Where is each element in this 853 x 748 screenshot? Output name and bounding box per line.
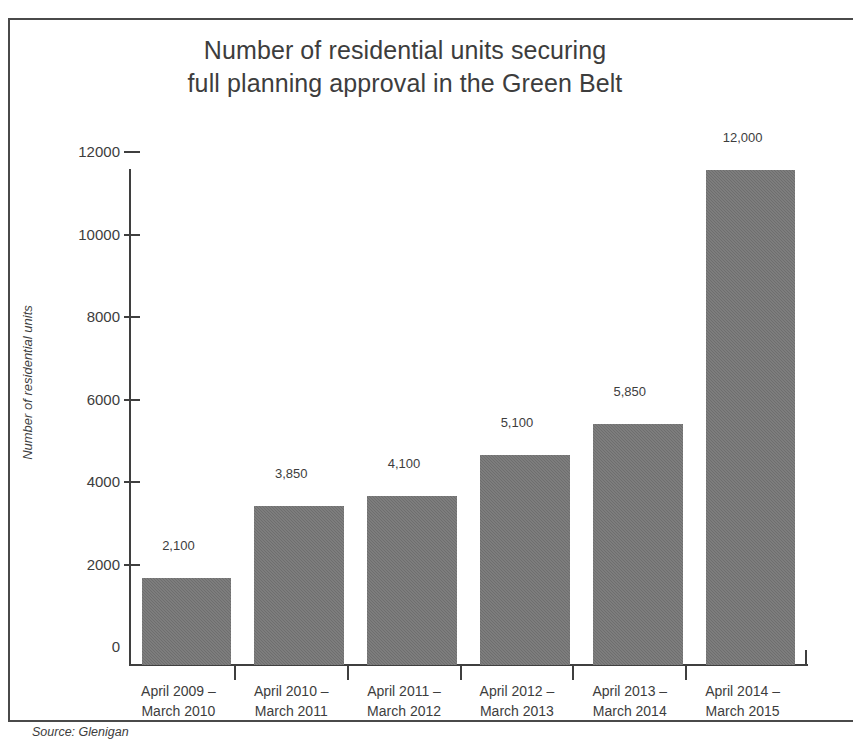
bar-value-label: 4,100 xyxy=(339,457,469,470)
y-axis-tick-label: 10000 xyxy=(58,227,120,242)
bar[interactable] xyxy=(706,170,796,665)
bar[interactable] xyxy=(254,506,344,665)
category-label-line: March 2010 xyxy=(122,701,235,721)
bar-value-label: 3,850 xyxy=(226,467,356,480)
category-label-line: April 2009 – xyxy=(122,681,235,701)
x-axis-tick xyxy=(572,666,574,680)
chart-title-line-1: Number of residential units securing xyxy=(10,34,800,67)
figure-frame: Number of residential units securing ful… xyxy=(8,18,853,722)
bar-value-label: 2,100 xyxy=(114,539,244,552)
bar[interactable] xyxy=(142,578,232,665)
y-axis-tick-label: 4000 xyxy=(58,474,120,489)
y-axis-tick-label: 2000 xyxy=(58,557,120,572)
category-label-line: April 2011 – xyxy=(348,681,461,701)
bar-value-label: 12,000 xyxy=(678,131,808,144)
x-axis-category-label: April 2013 –March 2014 xyxy=(573,681,686,721)
x-axis-tick xyxy=(347,666,349,680)
bar-value-label: 5,850 xyxy=(565,385,695,398)
category-label-line: March 2014 xyxy=(573,701,686,721)
y-axis-tick-label: 8000 xyxy=(58,309,120,324)
category-label-line: March 2015 xyxy=(686,701,799,721)
y-axis-tick-label: 12000 xyxy=(58,144,120,159)
x-axis-category-label: April 2011 –March 2012 xyxy=(348,681,461,721)
chart-title-line-2: full planning approval in the Green Belt xyxy=(10,67,800,100)
bar[interactable] xyxy=(367,496,457,665)
y-axis-tick-labels: 020004000600080001000012000 xyxy=(58,20,120,748)
category-label-line: March 2012 xyxy=(348,701,461,721)
chart-title: Number of residential units securing ful… xyxy=(10,34,800,100)
x-axis-category-label: April 2012 –March 2013 xyxy=(461,681,574,721)
x-axis-category-label: April 2014 –March 2015 xyxy=(686,681,799,721)
category-label-line: April 2014 – xyxy=(686,681,799,701)
category-label-line: March 2011 xyxy=(235,701,348,721)
y-axis-tick-label: 0 xyxy=(58,639,120,654)
category-label-line: April 2010 – xyxy=(235,681,348,701)
y-axis-title: Number of residential units xyxy=(20,283,35,483)
bar[interactable] xyxy=(593,424,683,665)
source-note: Source: Glenigan xyxy=(32,725,129,739)
y-axis-tick xyxy=(124,151,140,153)
y-axis-tick-label: 6000 xyxy=(58,392,120,407)
x-axis-tick xyxy=(234,666,236,680)
x-axis-category-label: April 2009 –March 2010 xyxy=(122,681,235,721)
bar-value-label: 5,100 xyxy=(452,416,582,429)
category-label-line: April 2012 – xyxy=(461,681,574,701)
bar[interactable] xyxy=(480,455,570,665)
x-axis-tick xyxy=(460,666,462,680)
category-label-line: April 2013 – xyxy=(573,681,686,701)
category-label-line: March 2013 xyxy=(461,701,574,721)
x-axis-category-label: April 2010 –March 2011 xyxy=(235,681,348,721)
x-axis-tick xyxy=(685,666,687,680)
